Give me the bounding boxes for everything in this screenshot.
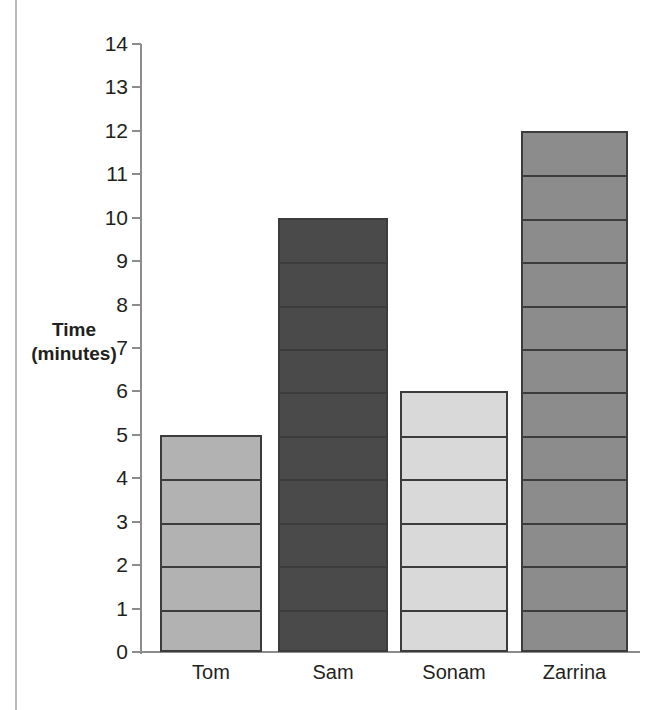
bar-segment-divider bbox=[402, 479, 506, 481]
bar-zarrina[interactable] bbox=[521, 131, 628, 652]
bar-segment-divider bbox=[402, 566, 506, 568]
bar-segment-divider bbox=[523, 610, 626, 612]
y-axis-tick bbox=[132, 260, 141, 262]
y-axis-tick bbox=[132, 564, 141, 566]
bar-segment-divider bbox=[523, 306, 626, 308]
y-axis-tick bbox=[132, 304, 141, 306]
bar-segment-divider bbox=[523, 392, 626, 394]
bar-segment-divider bbox=[280, 566, 386, 568]
bar-chart: Time (minutes) 01234567891011121314 TomS… bbox=[0, 0, 666, 710]
bar-segment-divider bbox=[402, 436, 506, 438]
bar-segment-divider bbox=[523, 479, 626, 481]
bar-sam[interactable] bbox=[278, 218, 388, 652]
bar-segment-divider bbox=[523, 566, 626, 568]
y-axis-tick-label: 5 bbox=[94, 424, 128, 445]
bar-segment-divider bbox=[523, 219, 626, 221]
bar-segment-divider bbox=[280, 349, 386, 351]
chart-page: Time (minutes) 01234567891011121314 TomS… bbox=[0, 0, 666, 710]
y-axis-tick-label: 0 bbox=[94, 641, 128, 662]
y-axis-line bbox=[140, 44, 142, 654]
bar-sonam[interactable] bbox=[400, 391, 508, 652]
y-axis-tick bbox=[132, 390, 141, 392]
bar-segment-divider bbox=[402, 610, 506, 612]
y-axis-tick bbox=[132, 217, 141, 219]
bar-segment-divider bbox=[523, 523, 626, 525]
y-axis-tick bbox=[132, 477, 141, 479]
bar-segment-divider bbox=[162, 566, 260, 568]
y-axis-tick-label: 14 bbox=[94, 33, 128, 54]
y-axis-tick-label: 11 bbox=[94, 163, 128, 184]
bar-segment-divider bbox=[280, 306, 386, 308]
y-axis-tick-label: 12 bbox=[94, 120, 128, 141]
y-axis-tick-label: 6 bbox=[94, 380, 128, 401]
bar-segment-divider bbox=[523, 262, 626, 264]
bar-segment-divider bbox=[280, 436, 386, 438]
x-axis-label-zarrina: Zarrina bbox=[521, 660, 628, 684]
bar-segment-divider bbox=[162, 523, 260, 525]
x-axis-label-sam: Sam bbox=[278, 660, 388, 684]
bar-segment-divider bbox=[162, 610, 260, 612]
bar-segment-divider bbox=[280, 523, 386, 525]
bar-segment-divider bbox=[280, 479, 386, 481]
y-axis-tick-label: 2 bbox=[94, 554, 128, 575]
bar-segment-divider bbox=[523, 436, 626, 438]
bar-segment-divider bbox=[280, 392, 386, 394]
y-axis-tick-label: 8 bbox=[94, 294, 128, 315]
y-axis-tick bbox=[132, 434, 141, 436]
y-axis-tick bbox=[132, 86, 141, 88]
y-axis-tick bbox=[132, 43, 141, 45]
bar-segment-divider bbox=[523, 349, 626, 351]
y-axis-tick-label: 10 bbox=[94, 207, 128, 228]
y-axis-tick-label: 9 bbox=[94, 250, 128, 271]
bar-tom[interactable] bbox=[160, 435, 262, 652]
bar-segment-divider bbox=[280, 610, 386, 612]
x-axis-label-tom: Tom bbox=[160, 660, 262, 684]
y-axis-tick-label: 3 bbox=[94, 511, 128, 532]
y-axis-tick bbox=[132, 130, 141, 132]
y-axis-tick-label: 7 bbox=[94, 337, 128, 358]
y-axis-tick bbox=[132, 608, 141, 610]
bar-segment-divider bbox=[280, 262, 386, 264]
bar-segment-divider bbox=[162, 479, 260, 481]
y-axis-tick-label: 13 bbox=[94, 76, 128, 97]
y-axis-tick-label: 1 bbox=[94, 598, 128, 619]
y-axis-tick bbox=[132, 347, 141, 349]
y-axis-tick bbox=[132, 651, 141, 653]
x-axis-label-sonam: Sonam bbox=[400, 660, 508, 684]
y-axis-tick bbox=[132, 173, 141, 175]
y-axis-tick-label: 4 bbox=[94, 467, 128, 488]
bar-segment-divider bbox=[523, 175, 626, 177]
y-axis-tick bbox=[132, 521, 141, 523]
bar-segment-divider bbox=[402, 523, 506, 525]
